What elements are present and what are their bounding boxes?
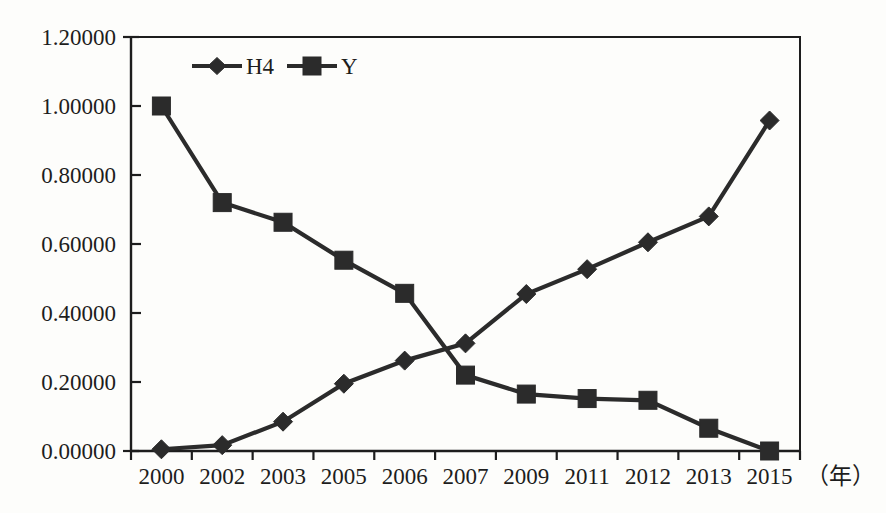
y-tick-label-1_2: 1.20000 bbox=[41, 25, 116, 50]
x-tick-label-2015: 2015 bbox=[747, 464, 793, 489]
chart-figure: 1.20000 1.00000 0.80000 0.60000 0.40000 … bbox=[0, 0, 886, 513]
x-tick-label-2011: 2011 bbox=[565, 464, 610, 489]
x-tick-label-2006: 2006 bbox=[382, 464, 428, 489]
y-tick-label-1_0: 1.00000 bbox=[41, 94, 116, 119]
data-point-square bbox=[213, 194, 231, 212]
y-tick-label-0_0: 0.00000 bbox=[41, 439, 116, 464]
x-tick-label-2007: 2007 bbox=[443, 464, 489, 489]
data-point-square bbox=[700, 419, 718, 437]
y-tick-label-0_8: 0.80000 bbox=[41, 163, 116, 188]
x-tick-label-2003: 2003 bbox=[260, 464, 306, 489]
x-tick-label-2005: 2005 bbox=[321, 464, 367, 489]
y-tick-label-0_4: 0.40000 bbox=[41, 301, 116, 326]
x-tick-label-2009: 2009 bbox=[503, 464, 549, 489]
x-tick-label-2000: 2000 bbox=[138, 464, 184, 489]
x-tick-label-2002: 2002 bbox=[199, 464, 245, 489]
y-tick-label-0_6: 0.60000 bbox=[41, 232, 116, 257]
chart-background bbox=[0, 0, 886, 513]
data-point-square bbox=[335, 251, 353, 269]
legend-label-y: Y bbox=[341, 54, 358, 79]
x-tick-label-2012: 2012 bbox=[625, 464, 671, 489]
x-axis-unit-label: （年） bbox=[806, 464, 875, 489]
line-chart: 1.20000 1.00000 0.80000 0.60000 0.40000 … bbox=[0, 0, 886, 513]
data-point-square bbox=[457, 366, 475, 384]
legend-label-h4: H4 bbox=[246, 54, 275, 79]
x-axis-tick-labels: 2000200220032005200620072009201120122013… bbox=[138, 464, 792, 489]
data-point-square bbox=[517, 385, 535, 403]
data-point-square bbox=[396, 284, 414, 302]
y-tick-label-0_2: 0.20000 bbox=[41, 370, 116, 395]
data-point-square bbox=[152, 97, 170, 115]
legend-square-icon bbox=[303, 57, 321, 75]
data-point-square bbox=[274, 213, 292, 231]
data-point-square bbox=[578, 390, 596, 408]
x-tick-label-2013: 2013 bbox=[686, 464, 732, 489]
data-point-square bbox=[761, 442, 779, 460]
data-point-square bbox=[639, 391, 657, 409]
